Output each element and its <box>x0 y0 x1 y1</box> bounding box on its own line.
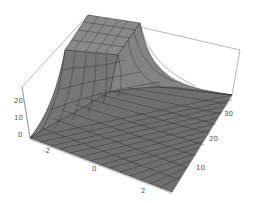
y-tick-30: 30 <box>224 110 233 118</box>
z-tick-10: 10 <box>14 114 23 122</box>
z-tick-0: 0 <box>18 131 22 139</box>
z-tick-20: 20 <box>14 97 23 105</box>
x-tick-0: 0 <box>92 165 96 173</box>
surface-plot: 20 10 0 -2 0 2 10 20 30 <box>0 0 256 203</box>
y-tick-20: 20 <box>209 135 218 143</box>
y-tick-10: 10 <box>196 164 205 172</box>
x-tick-neg2: -2 <box>43 147 50 155</box>
z-axis: 20 10 0 <box>14 97 23 139</box>
x-tick-2: 2 <box>141 187 145 195</box>
